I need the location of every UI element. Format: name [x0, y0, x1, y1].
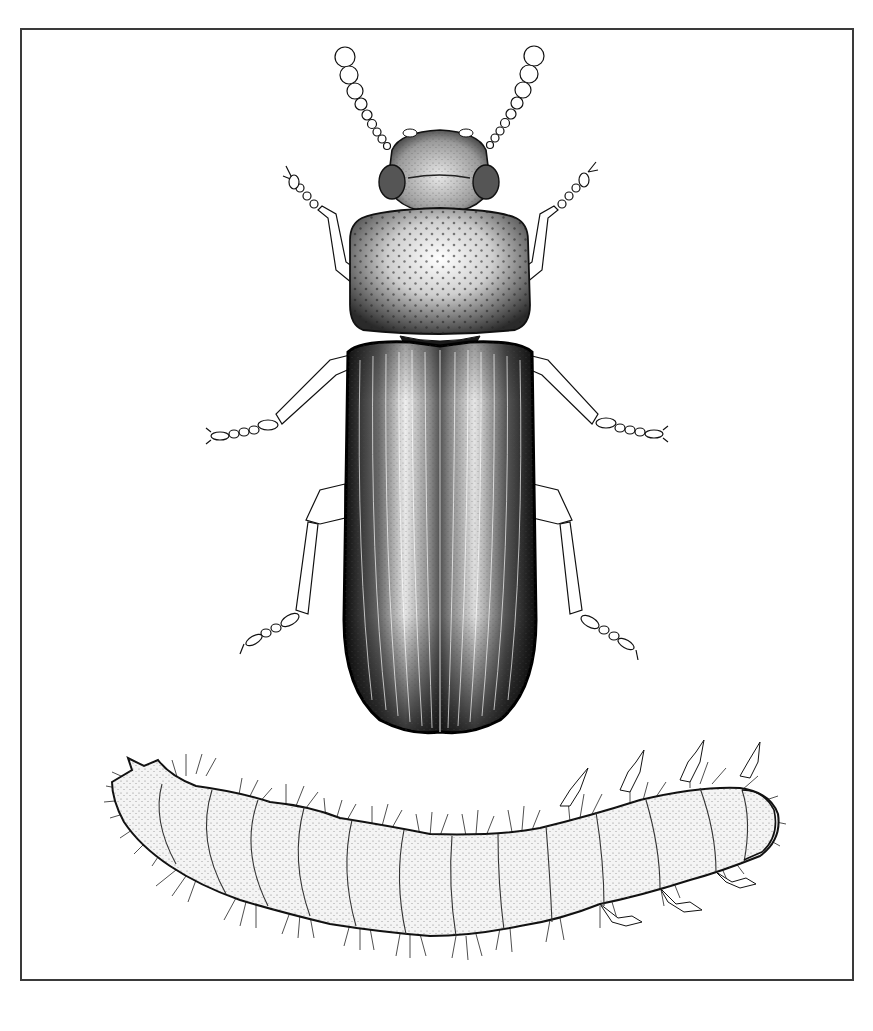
- compound-eye-left: [379, 165, 405, 199]
- compound-eye-right: [473, 165, 499, 199]
- leg-middle-left: [206, 355, 352, 444]
- antenna-right: [487, 46, 545, 149]
- adult-beetle: [206, 46, 668, 733]
- larva: [104, 740, 786, 960]
- leg-front-left: [283, 166, 360, 283]
- pronotum: [350, 208, 530, 334]
- leg-hind-right: [533, 484, 638, 660]
- leg-middle-right: [526, 355, 668, 442]
- antenna-left: [335, 47, 391, 150]
- leg-hind-left: [240, 484, 345, 654]
- leg-front-right: [518, 162, 598, 283]
- beetle-illustration: [0, 0, 873, 1031]
- beetle-head: [379, 129, 499, 214]
- elytra: [344, 342, 536, 733]
